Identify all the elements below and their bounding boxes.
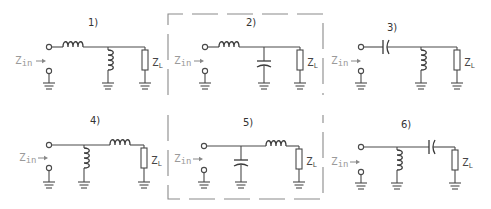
ground-icon	[451, 83, 463, 89]
ground-icon	[139, 83, 151, 89]
input-terminal	[46, 44, 51, 49]
input-terminal	[201, 143, 206, 148]
ground-icon	[138, 182, 150, 188]
zl-label: ZL	[307, 56, 318, 70]
arrow-icon	[38, 156, 48, 160]
circuit-label: 3)	[387, 22, 397, 33]
ground-terminal	[46, 68, 51, 73]
arrow-icon	[194, 59, 204, 63]
zin-label: Zin	[15, 54, 32, 68]
input-terminal	[202, 44, 207, 49]
input-terminal	[358, 144, 363, 149]
input-terminal	[46, 142, 51, 147]
circuit-label: 5)	[243, 117, 253, 128]
ground-icon	[102, 83, 114, 89]
arrow-icon	[193, 157, 203, 161]
ground-icon	[43, 83, 55, 89]
zl-label: ZL	[151, 154, 162, 168]
circuit-3: 3) ZL Zin	[331, 22, 475, 89]
ground-terminal	[46, 165, 51, 170]
ground-icon	[258, 83, 270, 89]
load-resistor-icon	[454, 50, 460, 70]
arrow-icon	[36, 59, 46, 63]
arrow-icon	[350, 160, 360, 164]
ground-icon	[355, 83, 367, 89]
ground-icon	[355, 183, 367, 189]
series-inductor-icon	[219, 42, 239, 47]
series-inductor-icon	[63, 42, 83, 47]
load-resistor-icon	[296, 149, 302, 169]
load-resistor-icon	[141, 148, 147, 168]
ground-icon	[235, 182, 247, 188]
ground-terminal	[358, 169, 363, 174]
circuit-1: 1) ZL Zin	[15, 17, 163, 89]
load-resistor-icon	[297, 50, 303, 70]
load-resistor-icon	[142, 50, 148, 70]
matching-networks-diagram: 1) ZL Zin 2) ZL	[0, 0, 491, 209]
circuit-6: 6) ZL Zin	[331, 119, 473, 189]
circuit-label: 2)	[246, 17, 256, 28]
ground-icon	[294, 83, 306, 89]
ground-terminal	[202, 68, 207, 73]
zl-label: ZL	[464, 56, 475, 70]
ground-icon	[391, 183, 403, 189]
load-resistor-icon	[452, 150, 458, 170]
zin-label: Zin	[331, 54, 348, 68]
circuit-label: 6)	[401, 119, 411, 130]
ground-icon	[43, 182, 55, 188]
zl-label: ZL	[152, 56, 163, 70]
circuit-4: 4) ZL Zin	[19, 115, 162, 188]
shunt-inductor-icon	[84, 148, 89, 168]
input-terminal	[358, 44, 363, 49]
circuit-2: 2) ZL Zin	[174, 17, 318, 89]
circuit-label: 1)	[88, 17, 98, 28]
ground-terminal	[201, 167, 206, 172]
ground-icon	[293, 182, 305, 188]
ground-icon	[449, 183, 461, 189]
ground-icon	[199, 83, 211, 89]
shunt-inductor-icon	[108, 50, 113, 70]
arrow-icon	[351, 59, 361, 63]
zl-label: ZL	[306, 155, 317, 169]
zin-label: Zin	[331, 155, 348, 169]
zin-label: Zin	[19, 151, 36, 165]
series-inductor-icon	[110, 140, 130, 145]
shunt-inductor-icon	[421, 50, 426, 70]
circuit-label: 4)	[90, 115, 100, 126]
ground-icon	[78, 182, 90, 188]
series-inductor-icon	[266, 141, 286, 146]
ground-terminal	[358, 68, 363, 73]
ground-icon	[198, 182, 210, 188]
zin-label: Zin	[174, 54, 191, 68]
circuit-5: 5) ZL Zin	[174, 117, 317, 188]
ground-icon	[415, 83, 427, 89]
zl-label: ZL	[462, 156, 473, 170]
zin-label: Zin	[174, 152, 191, 166]
shunt-inductor-icon	[397, 150, 402, 170]
